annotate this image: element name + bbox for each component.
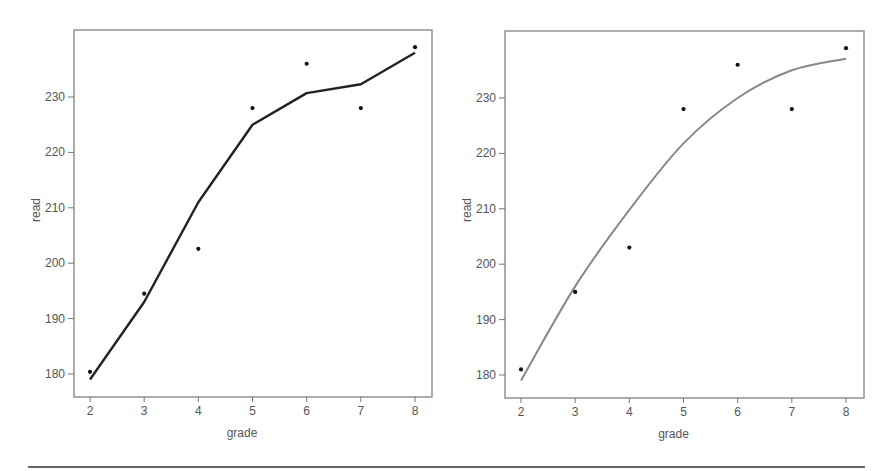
x-axis-label: grade (658, 427, 689, 441)
data-point (88, 370, 92, 374)
x-tick-label: 5 (249, 404, 256, 418)
y-tick-label: 200 (476, 257, 496, 271)
x-tick-label: 7 (357, 404, 364, 418)
y-axis-label: read (460, 198, 474, 222)
x-tick-label: 4 (195, 404, 202, 418)
right-panel-quadratic-fit: 1801902002102202302345678graderead (431, 0, 877, 460)
x-tick-label: 4 (626, 405, 633, 419)
y-tick-label: 220 (476, 146, 496, 160)
x-tick-label: 7 (788, 405, 795, 419)
data-point (359, 106, 363, 110)
data-point (250, 106, 254, 110)
bottom-divider-rule (28, 466, 865, 468)
y-tick-label: 230 (476, 91, 496, 105)
x-tick-label: 6 (303, 404, 310, 418)
data-point (519, 367, 523, 371)
x-tick-label: 3 (572, 405, 579, 419)
data-point (681, 107, 685, 111)
data-point (790, 107, 794, 111)
y-tick-label: 230 (45, 90, 65, 104)
plot-frame (74, 30, 432, 397)
data-point (736, 63, 740, 67)
data-point (627, 245, 631, 249)
data-point (413, 45, 417, 49)
data-point (305, 62, 309, 66)
y-tick-label: 180 (45, 367, 65, 381)
right-chart: 1801902002102202302345678graderead (431, 0, 877, 460)
x-tick-label: 8 (843, 405, 850, 419)
plot-frame (505, 31, 864, 398)
fitted-line (90, 53, 415, 380)
y-tick-label: 210 (45, 201, 65, 215)
y-axis-label: read (29, 198, 43, 222)
data-point (142, 292, 146, 296)
x-tick-label: 6 (734, 405, 741, 419)
y-tick-label: 180 (476, 368, 496, 382)
y-tick-label: 200 (45, 256, 65, 270)
y-tick-label: 190 (476, 313, 496, 327)
y-tick-label: 210 (476, 202, 496, 216)
y-tick-label: 220 (45, 145, 65, 159)
data-point (844, 46, 848, 50)
data-point (196, 247, 200, 251)
fitted-curve (521, 59, 846, 381)
x-tick-label: 8 (412, 404, 419, 418)
x-tick-label: 3 (141, 404, 148, 418)
x-tick-label: 5 (680, 405, 687, 419)
left-chart: 1801902002102202302345678graderead (0, 0, 446, 460)
left-panel-piecewise-fit: 1801902002102202302345678graderead (0, 0, 446, 460)
x-axis-label: grade (227, 426, 258, 440)
data-point (573, 290, 577, 294)
x-tick-label: 2 (518, 405, 525, 419)
y-tick-label: 190 (45, 312, 65, 326)
x-tick-label: 2 (87, 404, 94, 418)
